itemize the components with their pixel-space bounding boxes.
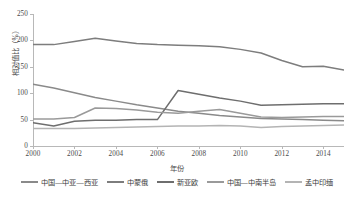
x-tick-label: 2014 xyxy=(316,150,331,158)
legend-item[interactable]: 新亚欧 xyxy=(157,177,198,187)
series-line xyxy=(33,125,344,129)
y-tick-label: 0 xyxy=(24,142,28,150)
chart-legend: 中国—中亚—西亚中蒙俄新亚欧中国—中南半岛孟中印缅 xyxy=(0,177,354,187)
x-tick-mark xyxy=(323,146,324,149)
y-tick-label: 50 xyxy=(21,116,28,124)
series-line xyxy=(33,38,344,70)
x-tick-mark xyxy=(74,146,75,149)
x-tick-mark xyxy=(157,146,158,149)
series-line xyxy=(33,108,344,119)
legend-color-swatch xyxy=(107,181,124,183)
legend-item[interactable]: 中国—中南半岛 xyxy=(207,177,276,187)
x-tick-label: 2000 xyxy=(26,150,41,158)
x-tick-label: 2010 xyxy=(233,150,248,158)
legend-color-swatch xyxy=(285,181,302,183)
legend-item[interactable]: 中国—中亚—西亚 xyxy=(21,177,97,187)
plot-area xyxy=(33,14,344,146)
legend-color-swatch xyxy=(21,181,38,183)
x-tick-mark xyxy=(282,146,283,149)
series-line xyxy=(33,91,344,126)
legend-label: 孟中印缅 xyxy=(305,177,333,187)
x-tick-mark xyxy=(199,146,200,149)
x-tick-label: 2002 xyxy=(67,150,82,158)
x-tick-mark xyxy=(240,146,241,149)
x-tick-label: 2006 xyxy=(150,150,165,158)
legend-item[interactable]: 孟中印缅 xyxy=(285,177,333,187)
x-tick-label: 2012 xyxy=(274,150,289,158)
x-tick-mark xyxy=(33,146,34,149)
legend-color-swatch xyxy=(207,181,224,183)
series-lines xyxy=(33,14,344,146)
y-axis-label: 相对值比（%） xyxy=(9,12,20,92)
legend-label: 新亚欧 xyxy=(177,177,198,187)
legend-color-swatch xyxy=(157,181,174,183)
legend-label: 中蒙俄 xyxy=(127,177,148,187)
legend-item[interactable]: 中蒙俄 xyxy=(107,177,148,187)
x-axis-label: 年份 xyxy=(0,162,354,173)
chart-container: 050100150200250 200020022004200620082010… xyxy=(0,0,354,200)
x-tick-label: 2004 xyxy=(109,150,124,158)
x-tick-label: 2008 xyxy=(191,150,206,158)
x-axis-line xyxy=(33,146,344,147)
legend-label: 中国—中南半岛 xyxy=(227,177,276,187)
x-tick-mark xyxy=(116,146,117,149)
legend-label: 中国—中亚—西亚 xyxy=(41,177,97,187)
